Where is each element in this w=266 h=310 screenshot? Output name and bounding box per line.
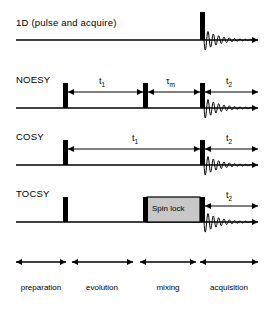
interval-label: t2: [226, 190, 232, 202]
pulse-bar: [200, 197, 205, 222]
pulse-bar: [63, 140, 68, 165]
phase-label: acquisition: [189, 283, 266, 292]
fid-signal: [204, 32, 252, 51]
interval-label: τm: [166, 76, 175, 88]
sequence-title: 1D (pulse and acquire): [16, 17, 117, 28]
fid-signal: [204, 100, 252, 119]
pulse-bar: [63, 83, 68, 108]
sequence-title: NOESY: [16, 74, 50, 85]
diagram-canvas: [0, 0, 266, 310]
pulse-bar: [200, 12, 205, 40]
pulse-bar: [143, 197, 148, 222]
pulse-sequence-figure: 1D (pulse and acquire)NOESYt1τmt2COSYt1t…: [0, 0, 266, 310]
spin-lock-label: Spin lock: [152, 204, 184, 213]
interval-label: t1: [132, 133, 138, 145]
fid-signal: [204, 214, 252, 233]
pulse-bar: [200, 140, 205, 165]
interval-subscript: 2: [229, 195, 233, 202]
interval-subscript: 2: [229, 81, 233, 88]
interval-label: t2: [226, 76, 232, 88]
pulse-bar: [63, 197, 68, 222]
interval-label: t1: [99, 76, 105, 88]
interval-subscript: 1: [102, 81, 106, 88]
interval-label: t2: [226, 133, 232, 145]
sequence-title: COSY: [16, 131, 44, 142]
interval-subscript: m: [170, 81, 175, 88]
interval-subscript: 2: [229, 138, 233, 145]
fid-signal: [204, 157, 252, 176]
interval-subscript: 1: [135, 138, 139, 145]
pulse-bar: [200, 83, 205, 108]
sequence-title: TOCSY: [16, 188, 50, 199]
pulse-bar: [143, 83, 148, 108]
